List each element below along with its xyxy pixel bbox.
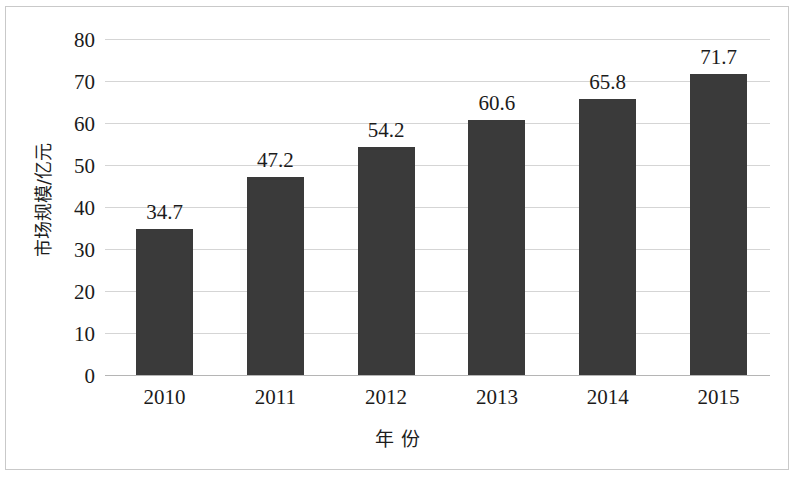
data-label-2013: 60.6: [457, 91, 537, 116]
data-label-2011: 47.2: [235, 148, 315, 173]
x-tick-label-2014: 2014: [553, 385, 663, 410]
y-tick-label: 0: [25, 364, 95, 389]
x-tick-label-2015: 2015: [664, 385, 774, 410]
x-tick-label-2012: 2012: [331, 385, 441, 410]
bar-2015: [690, 74, 747, 375]
y-tick-label: 40: [25, 196, 95, 221]
data-label-2015: 71.7: [679, 45, 759, 70]
y-tick-label: 50: [25, 154, 95, 179]
x-tick-label-2013: 2013: [442, 385, 552, 410]
bar-chart-figure: 市场规模/亿元 80 70 60 50 40 30 20 10 0 34.: [0, 0, 795, 478]
x-axis-line: [105, 375, 770, 376]
y-tick-label: 70: [25, 70, 95, 95]
y-tick-label: 60: [25, 112, 95, 137]
bar-series: [105, 39, 770, 375]
y-tick-label: 80: [25, 28, 95, 53]
x-tick-label-2010: 2010: [110, 385, 220, 410]
y-tick-label: 20: [25, 280, 95, 305]
plot-area: [105, 39, 770, 375]
data-label-2012: 54.2: [346, 118, 426, 143]
y-tick-label: 30: [25, 238, 95, 263]
x-axis-title: 年 份: [0, 424, 795, 451]
bar-2010: [136, 229, 193, 375]
bar-2012: [358, 147, 415, 375]
x-tick-label-2011: 2011: [220, 385, 330, 410]
bar-2014: [579, 99, 636, 375]
bar-2011: [247, 177, 304, 375]
y-tick-label: 10: [25, 322, 95, 347]
data-label-2010: 34.7: [125, 200, 205, 225]
data-label-2014: 65.8: [568, 70, 648, 95]
bar-2013: [468, 120, 525, 375]
